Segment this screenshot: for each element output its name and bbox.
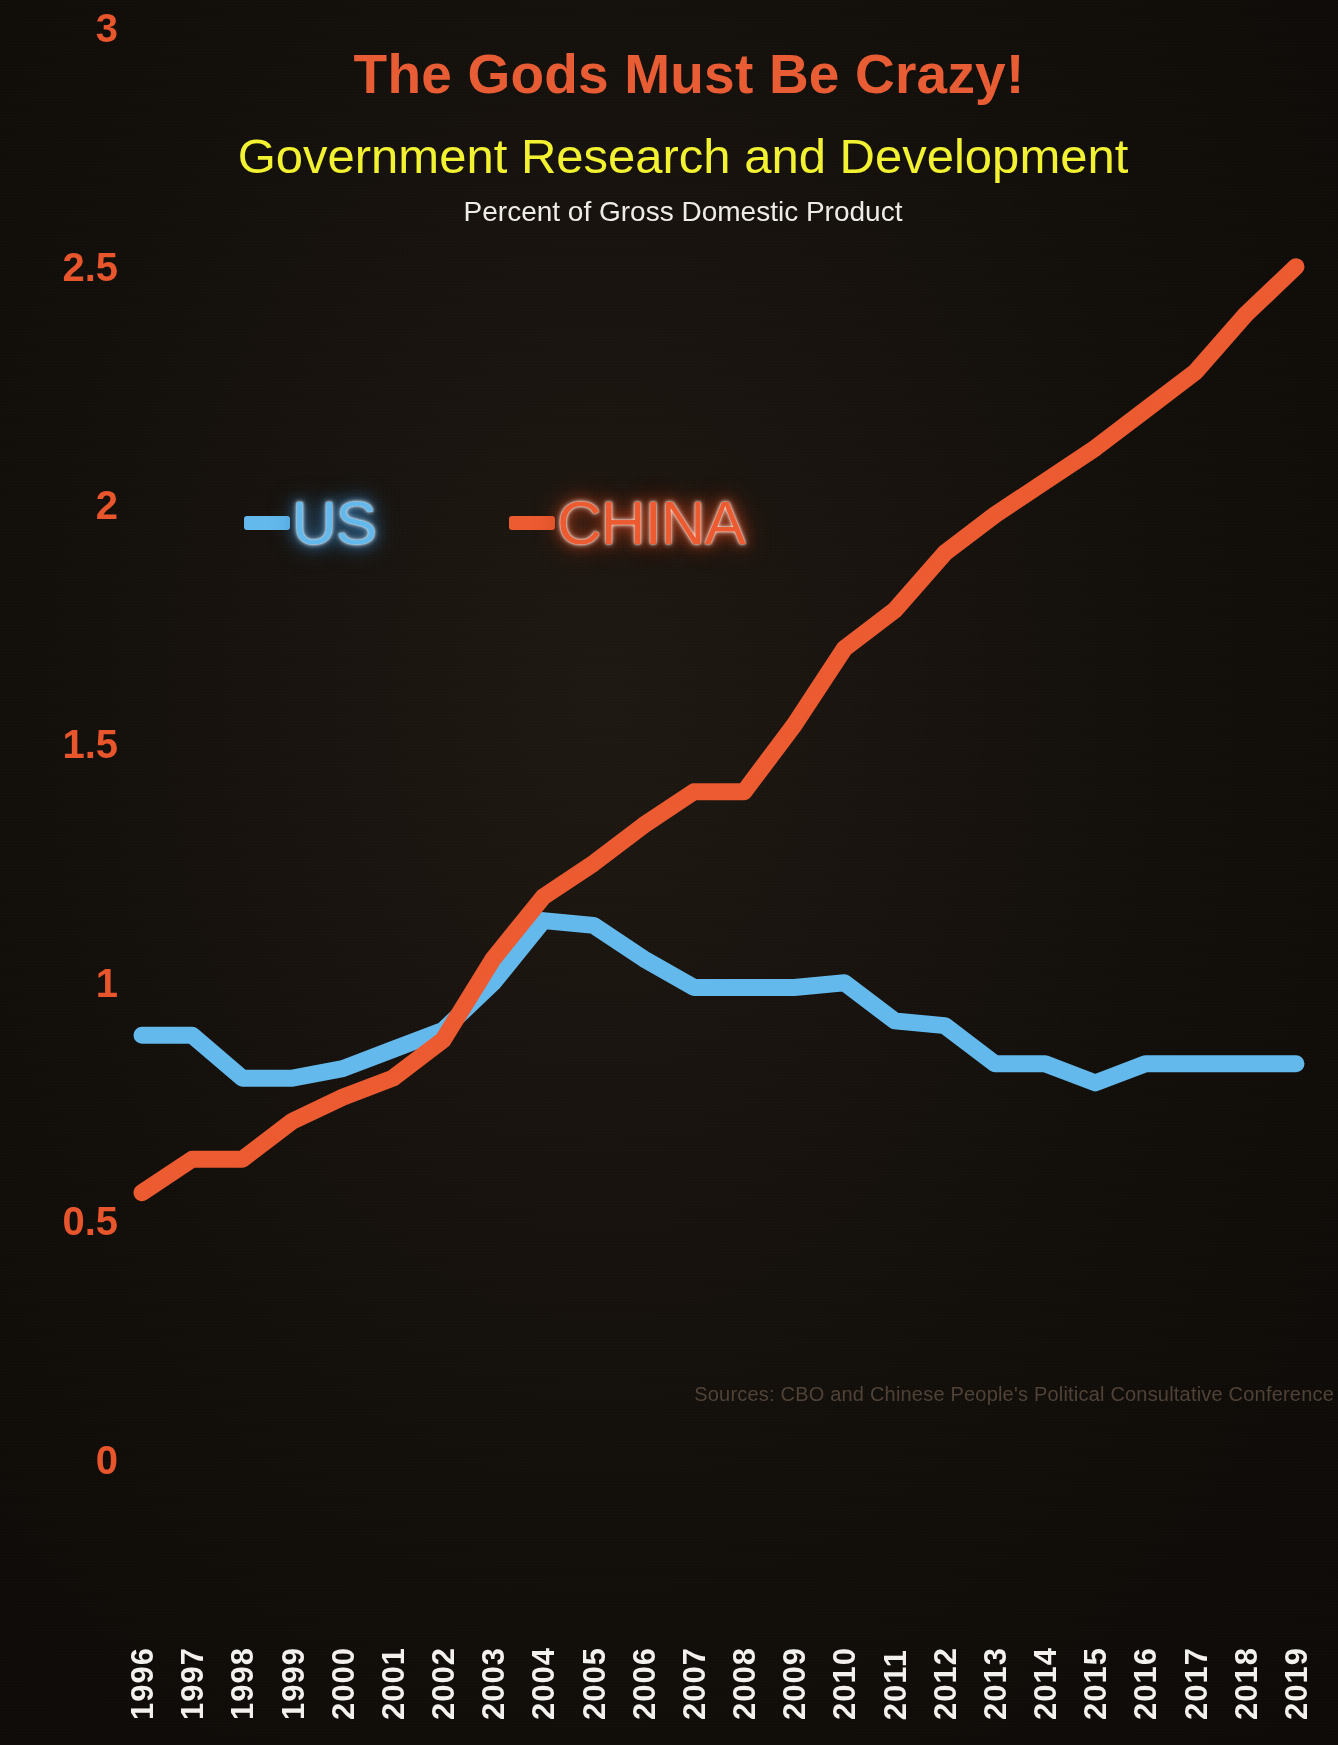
legend-line-swatch-china — [509, 516, 555, 530]
chart-legend: US CHINA — [244, 478, 864, 568]
x-axis-tick-label: 1996 — [127, 1647, 158, 1720]
line-chart-svg — [118, 28, 1323, 1463]
y-axis: 00.511.522.53 — [0, 0, 118, 1745]
x-axis-tick-label: 2019 — [1281, 1647, 1312, 1720]
chart-page: The Gods Must Be Crazy! Government Resea… — [0, 0, 1338, 1745]
plot-area — [118, 28, 1323, 1463]
series-line-us — [142, 921, 1296, 1083]
x-axis-tick-label: 2001 — [378, 1647, 409, 1720]
x-axis-tick-label: 1999 — [278, 1647, 309, 1720]
x-axis-tick-label: 2000 — [328, 1647, 359, 1720]
legend-label-china: CHINA — [557, 492, 745, 554]
y-axis-tick-label: 1.5 — [10, 722, 118, 767]
x-axis-tick-label: 2003 — [478, 1647, 509, 1720]
x-axis-tick-label: 2002 — [428, 1647, 459, 1720]
x-axis-tick-label: 2012 — [930, 1647, 961, 1720]
x-axis-tick-label: 1997 — [177, 1647, 208, 1720]
x-axis-tick-label: 2009 — [779, 1647, 810, 1720]
series-line-china — [142, 267, 1296, 1193]
y-axis-tick-label: 3 — [10, 6, 118, 51]
x-axis-tick-label: 2007 — [679, 1647, 710, 1720]
x-axis-tick-label: 2018 — [1231, 1647, 1262, 1720]
y-axis-tick-label: 2.5 — [10, 244, 118, 289]
x-axis-tick-label: 2013 — [980, 1647, 1011, 1720]
x-axis-tick-label: 2008 — [729, 1647, 760, 1720]
legend-line-swatch-us — [244, 516, 290, 530]
x-axis-tick-label: 2004 — [528, 1647, 559, 1720]
x-axis-tick-label: 2010 — [829, 1647, 860, 1720]
x-axis-tick-label: 2017 — [1181, 1647, 1212, 1720]
y-axis-tick-label: 1 — [10, 960, 118, 1005]
y-axis-tick-label: 2 — [10, 483, 118, 528]
legend-item-china[interactable]: CHINA — [509, 478, 745, 568]
y-axis-tick-label: 0 — [10, 1438, 118, 1483]
x-axis-tick-label: 2005 — [579, 1647, 610, 1720]
legend-item-us[interactable]: US — [244, 478, 376, 568]
x-axis-tick-label: 2011 — [880, 1649, 911, 1720]
x-axis-tick-label: 2006 — [629, 1647, 660, 1720]
legend-label-us: US — [292, 492, 376, 554]
x-axis-tick-label: 2014 — [1030, 1647, 1061, 1720]
x-axis: 1996199719981999200020012002200320042005… — [118, 1478, 1323, 1728]
x-axis-tick-label: 2015 — [1080, 1647, 1111, 1720]
source-note: Sources: CBO and Chinese People's Politi… — [694, 1383, 1334, 1406]
y-axis-tick-label: 0.5 — [10, 1199, 118, 1244]
x-axis-tick-label: 2016 — [1130, 1647, 1161, 1720]
x-axis-tick-label: 1998 — [227, 1647, 258, 1720]
